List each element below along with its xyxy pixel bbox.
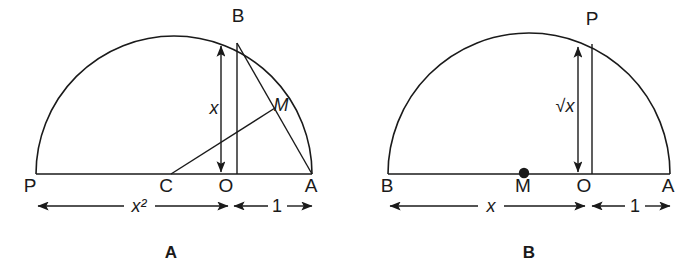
panel-a-point-label-C: C (159, 175, 173, 196)
panel-a-point-label-M: M (274, 95, 289, 115)
panel-a-segment-CM (171, 108, 275, 174)
panel-b-point-label-O: O (577, 175, 592, 196)
panel-b-semicircle-arc (388, 33, 670, 174)
panel-b-height-label: √x (556, 96, 576, 116)
panel-a-height-label: x (209, 98, 220, 118)
panel-b-point-label-B: B (381, 175, 394, 196)
panel-b-point-label-M: M (515, 175, 531, 196)
panel-a-dim-right-label: 1 (272, 196, 282, 216)
panel-b-caption: B (523, 243, 536, 262)
panel-a-semicircle-arc (36, 36, 312, 174)
panel-b: B M O A P √x x 1 B (381, 8, 675, 262)
panel-b-point-label-A: A (662, 175, 675, 196)
figure-canvas: P C O A B M x x² 1 A (0, 0, 696, 278)
geometry-figure: P C O A B M x x² 1 A (0, 0, 696, 278)
panel-a-point-label-P: P (24, 175, 37, 196)
panel-a-dim-left-label: x² (131, 196, 148, 216)
panel-b-point-label-P: P (586, 8, 599, 29)
panel-b-dim-left-label: x (486, 196, 497, 216)
panel-a-point-label-A: A (305, 175, 318, 196)
panel-a: P C O A B M x x² 1 A (24, 5, 318, 262)
panel-a-point-label-O: O (219, 175, 234, 196)
panel-a-caption: A (165, 243, 178, 262)
panel-a-point-label-B: B (232, 5, 245, 26)
panel-b-dim-right-label: 1 (630, 196, 640, 216)
